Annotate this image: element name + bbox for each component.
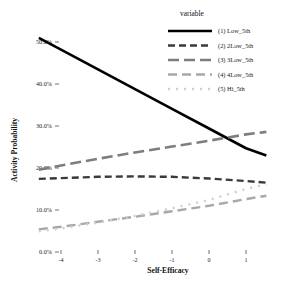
y-tick-label: 30.0%: [36, 122, 52, 129]
x-tick-label: -4: [58, 256, 63, 263]
legend-label-3low_5th: (3) 3Low_5th: [218, 56, 254, 64]
chart-legend: (1) Low_5th(2) 2Low_5th(3) 3Low_5th(4) 4…: [168, 27, 254, 93]
series-line-4low_5th: [39, 196, 267, 230]
series-line-3low_5th: [39, 132, 267, 170]
x-axis-title: Self-Efficacy: [147, 266, 189, 275]
legend-title: variable: [180, 9, 205, 18]
y-tick-label: 40.0%: [36, 80, 52, 87]
y-axis-tick-labels: 0.0%10.0%20.0%30.0%40.0%50.0%: [36, 38, 52, 255]
legend-label-hi_5th: (5) Hi_5th: [218, 85, 246, 93]
y-axis-tickmarks: [55, 42, 59, 252]
y-tick-label: 10.0%: [36, 206, 52, 213]
x-tick-label: -2: [132, 256, 137, 263]
x-tick-label: -1: [169, 256, 174, 263]
legend-label-4low_5th: (4) 4Low_5th: [218, 71, 254, 79]
x-tick-label: 1: [244, 256, 247, 263]
x-tick-label: 0: [207, 256, 210, 263]
data-series-group: [39, 38, 267, 232]
series-line-2low_5th: [39, 176, 267, 182]
legend-label-2low_5th: (2) 2Low_5th: [218, 42, 254, 50]
legend-label-low_5th: (1) Low_5th: [218, 27, 251, 35]
x-axis-tick-labels: -4-3-2-101: [58, 256, 247, 263]
chart-figure: 0.0%10.0%20.0%30.0%40.0%50.0% -4-3-2-101…: [0, 0, 294, 293]
line-chart-canvas: 0.0%10.0%20.0%30.0%40.0%50.0% -4-3-2-101…: [0, 0, 294, 293]
y-axis-title: Activity Probability: [10, 118, 19, 182]
x-axis-tickmarks: [61, 250, 246, 254]
y-tick-label: 0.0%: [39, 248, 52, 255]
x-tick-label: -3: [95, 256, 100, 263]
